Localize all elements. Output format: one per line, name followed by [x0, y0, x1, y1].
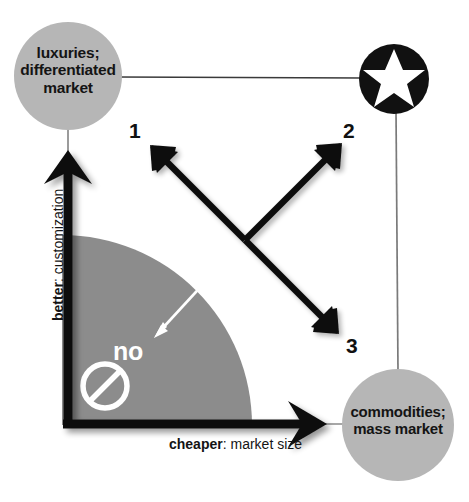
- node-commodities-label: commodities; mass market: [336, 404, 460, 438]
- arrow-3-label: 3: [346, 334, 358, 358]
- connector-star-to-commodities: [396, 110, 398, 372]
- arrow-3-down-right: [245, 240, 339, 334]
- x-axis-label: cheaper: market size: [169, 437, 302, 453]
- y-axis-label-rest: : customization: [50, 189, 66, 282]
- node-luxuries-label: luxuries; differentiated market: [14, 44, 122, 96]
- x-axis-label-rest: : market size: [223, 436, 302, 452]
- node-star[interactable]: [359, 44, 429, 114]
- diagram-canvas: luxuries; differentiated market commodit…: [0, 0, 469, 502]
- arrow-2-up-right: [245, 143, 342, 240]
- arrow-1-label: 1: [129, 119, 141, 143]
- connector-luxuries-to-star: [118, 77, 362, 78]
- no-zone-label: no: [113, 337, 143, 365]
- arrow-2-label: 2: [343, 119, 355, 143]
- arrow-1-up-left: [150, 145, 245, 240]
- y-axis-label: better: customization: [51, 175, 67, 335]
- x-axis-label-emphasis: cheaper: [169, 436, 223, 452]
- y-axis-label-emphasis: better: [50, 282, 66, 321]
